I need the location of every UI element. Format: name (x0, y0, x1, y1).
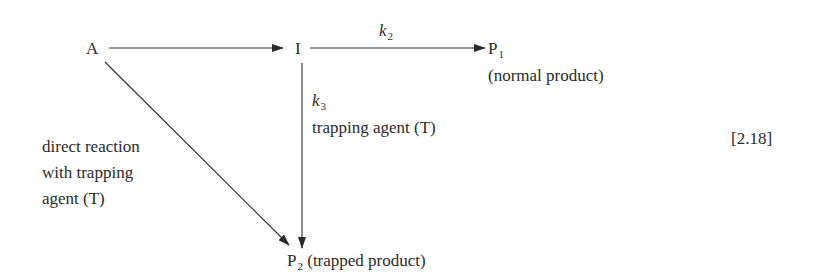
direct-reaction-line-2: with trapping (42, 160, 140, 186)
k3-subscript: 3 (321, 100, 327, 112)
node-p2-label: P (287, 251, 296, 270)
rate-constant-k2: k2 (379, 22, 393, 39)
rate-constant-k3: k3 (312, 92, 326, 109)
node-p1-description: (normal product) (488, 67, 604, 84)
trapping-agent-label: trapping agent (T) (312, 119, 436, 136)
node-p1-label: P (488, 39, 497, 58)
k3-symbol: k (312, 91, 320, 110)
node-i-label: I (295, 39, 301, 58)
node-p1: P1 (488, 40, 504, 57)
node-p2-subscript: 2 (297, 260, 303, 272)
direct-reaction-label: direct reaction with trapping agent (T) (42, 134, 140, 212)
node-p2-description: (trapped product) (307, 251, 425, 270)
k2-subscript: 2 (388, 30, 394, 42)
node-a-label: A (86, 39, 98, 58)
node-p2: P2 (trapped product) (287, 252, 426, 269)
direct-reaction-line-3: agent (T) (42, 186, 140, 212)
node-i: I (295, 40, 301, 57)
node-p1-subscript: 1 (498, 48, 504, 60)
direct-reaction-line-1: direct reaction (42, 134, 140, 160)
node-a: A (86, 40, 98, 57)
equation-number: [2.18] (731, 130, 772, 147)
k2-symbol: k (379, 21, 387, 40)
